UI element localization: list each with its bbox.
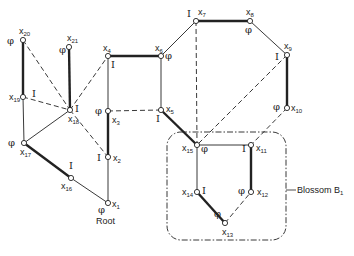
node-label: x13 — [222, 227, 234, 238]
node-x15: x15φ — [182, 142, 208, 154]
phi-mark: φ — [201, 143, 208, 154]
inner-mark: I — [242, 143, 246, 154]
node-x14: x14I — [182, 185, 206, 198]
node-circle-icon — [21, 140, 26, 145]
edge-x5-x15-thick — [161, 110, 197, 145]
node-label: x16 — [61, 181, 73, 192]
inner-mark: I — [111, 59, 115, 70]
phi-mark: φ — [7, 35, 14, 46]
inner-mark: I — [32, 88, 36, 99]
edge-x17-x19-thin — [23, 97, 24, 143]
node-circle-icon — [68, 175, 73, 180]
phi-mark: φ — [95, 105, 102, 116]
blossom-label-text: Blossom B — [297, 185, 340, 195]
phi-mark: φ — [214, 208, 221, 219]
node-label: x8 — [246, 7, 255, 18]
node-x13: x13φ — [214, 208, 234, 238]
node-label: x20 — [19, 26, 31, 37]
phi-mark: φ — [98, 204, 105, 215]
node-x6: x6φ — [155, 43, 172, 61]
node-label: x10 — [291, 103, 303, 114]
node-circle-icon — [248, 189, 253, 194]
node-label: x1 — [112, 199, 121, 210]
node-x11: x11I — [242, 142, 267, 154]
phi-mark: φ — [165, 50, 172, 61]
node-label: x7 — [198, 7, 207, 18]
root-label: Root — [96, 216, 116, 226]
edge-x1-x16-thin — [71, 178, 108, 203]
labels: Root Blossom B1 — [96, 185, 344, 226]
nodes: x1φx2Ix3φx4Ix5Ix6φx7Ix8φx9Ix10φx11Ix12φx… — [7, 7, 303, 238]
inner-mark: I — [187, 8, 191, 19]
node-circle-icon — [248, 142, 253, 147]
node-label: x21 — [67, 33, 79, 44]
node-circle-icon — [194, 189, 199, 194]
edge-x19-x18-dashed — [23, 97, 70, 110]
node-label: x3 — [112, 115, 121, 126]
phi-mark: φ — [245, 24, 252, 35]
node-label: x2 — [113, 153, 122, 164]
edge-x8-x9-thin — [250, 21, 287, 55]
svg-text:Blossom B1: Blossom B1 — [297, 185, 344, 196]
node-circle-icon — [194, 142, 199, 147]
edge-x18-x4-dashed — [70, 56, 108, 110]
node-circle-icon — [247, 18, 252, 23]
node-x1: x1φ — [98, 199, 121, 215]
edge-x10-x11-dashed — [251, 108, 287, 145]
node-circle-icon — [20, 37, 25, 42]
node-label: x5 — [166, 104, 175, 115]
node-circle-icon — [20, 94, 25, 99]
phi-mark: φ — [273, 101, 280, 112]
node-x12: x12φ — [238, 185, 269, 198]
node-label: x12 — [257, 187, 269, 198]
node-x20: x20φ — [7, 26, 31, 46]
edge-x3-x5-dashed — [108, 110, 161, 111]
node-label: x9 — [284, 41, 293, 52]
phi-mark: φ — [59, 44, 66, 55]
inner-mark: I — [69, 160, 73, 171]
node-circle-icon — [222, 220, 227, 225]
node-circle-icon — [284, 52, 289, 57]
edge-x13-x12-dashed — [225, 192, 251, 223]
node-label: x19 — [9, 92, 21, 103]
edge-x9-x15-dashed — [197, 55, 287, 145]
inner-mark: I — [75, 103, 79, 114]
edge-x16-x17-thick — [24, 143, 71, 178]
blossom-graph-diagram: x1φx2Ix3φx4Ix5Ix6φx7Ix8φx9Ix10φx11Ix12φx… — [0, 0, 354, 256]
inner-mark: I — [202, 185, 206, 196]
phi-mark: φ — [238, 185, 245, 196]
node-circle-icon — [67, 107, 72, 112]
node-label: x4 — [103, 43, 112, 54]
node-circle-icon — [105, 108, 110, 113]
blossom-label-subscript: 1 — [340, 190, 344, 196]
inner-mark: I — [97, 152, 101, 163]
node-label: x6 — [155, 43, 164, 54]
node-x2: x2I — [97, 152, 122, 164]
blossom-label: Blossom B1 — [286, 185, 344, 196]
node-label: x14 — [182, 187, 194, 198]
node-circle-icon — [193, 18, 198, 23]
edge-x18-x2-dashed — [70, 110, 108, 157]
edge-x17-x18-thin — [24, 110, 70, 143]
edge-x18-x21-thick — [69, 47, 70, 110]
inner-mark: I — [156, 113, 160, 124]
node-circle-icon — [158, 53, 163, 58]
edge-x7-x15-dashed — [196, 21, 197, 145]
node-circle-icon — [105, 200, 110, 205]
node-circle-icon — [284, 105, 289, 110]
node-label: x15 — [182, 143, 194, 154]
node-circle-icon — [158, 107, 163, 112]
node-circle-icon — [66, 44, 71, 49]
node-circle-icon — [105, 154, 110, 159]
phi-mark: φ — [8, 137, 15, 148]
inner-mark: I — [275, 51, 279, 62]
node-label: x11 — [256, 143, 267, 154]
node-label: x18 — [68, 114, 80, 125]
node-circle-icon — [105, 53, 110, 58]
